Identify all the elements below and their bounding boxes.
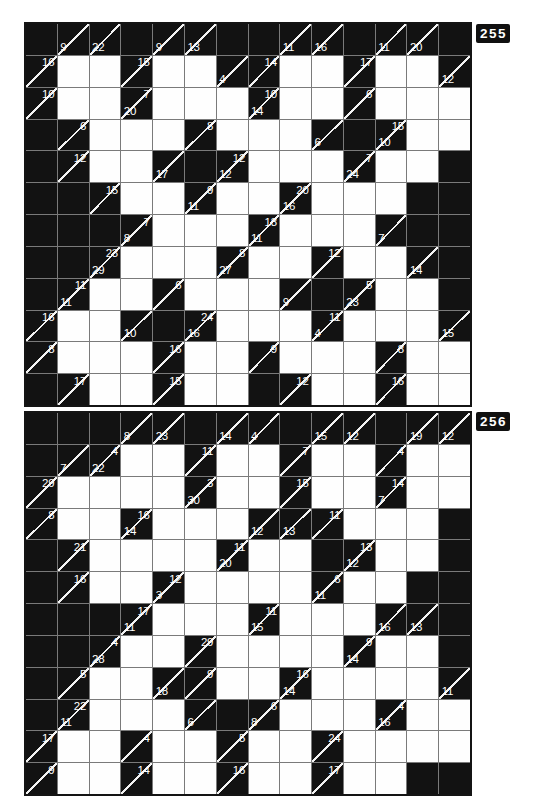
answer-cell[interactable] xyxy=(90,509,121,540)
answer-cell[interactable] xyxy=(121,183,152,214)
answer-cell[interactable] xyxy=(407,279,438,310)
answer-cell[interactable] xyxy=(312,668,343,699)
answer-cell[interactable] xyxy=(376,763,407,794)
answer-cell[interactable] xyxy=(217,183,248,214)
answer-cell[interactable] xyxy=(249,477,280,508)
answer-cell[interactable] xyxy=(153,636,184,667)
answer-cell[interactable] xyxy=(376,540,407,571)
answer-cell[interactable] xyxy=(121,636,152,667)
answer-cell[interactable] xyxy=(121,279,152,310)
answer-cell[interactable] xyxy=(280,731,311,762)
answer-cell[interactable] xyxy=(58,311,89,342)
answer-cell[interactable] xyxy=(121,247,152,278)
answer-cell[interactable] xyxy=(312,183,343,214)
answer-cell[interactable] xyxy=(312,151,343,182)
answer-cell[interactable] xyxy=(217,572,248,603)
answer-cell[interactable] xyxy=(439,477,470,508)
answer-cell[interactable] xyxy=(280,247,311,278)
answer-cell[interactable] xyxy=(407,731,438,762)
answer-cell[interactable] xyxy=(58,763,89,794)
answer-cell[interactable] xyxy=(312,374,343,405)
answer-cell[interactable] xyxy=(407,445,438,476)
answer-cell[interactable] xyxy=(312,88,343,119)
answer-cell[interactable] xyxy=(312,342,343,373)
answer-cell[interactable] xyxy=(121,445,152,476)
answer-cell[interactable] xyxy=(344,477,375,508)
answer-cell[interactable] xyxy=(90,279,121,310)
answer-cell[interactable] xyxy=(439,374,470,405)
answer-cell[interactable] xyxy=(185,215,216,246)
answer-cell[interactable] xyxy=(376,636,407,667)
answer-cell[interactable] xyxy=(185,247,216,278)
answer-cell[interactable] xyxy=(217,668,248,699)
answer-cell[interactable] xyxy=(58,477,89,508)
answer-cell[interactable] xyxy=(121,668,152,699)
answer-cell[interactable] xyxy=(376,668,407,699)
answer-cell[interactable] xyxy=(376,183,407,214)
answer-cell[interactable] xyxy=(344,311,375,342)
answer-cell[interactable] xyxy=(249,572,280,603)
answer-cell[interactable] xyxy=(407,700,438,731)
answer-cell[interactable] xyxy=(439,700,470,731)
answer-cell[interactable] xyxy=(249,183,280,214)
answer-cell[interactable] xyxy=(407,509,438,540)
answer-cell[interactable] xyxy=(185,731,216,762)
answer-cell[interactable] xyxy=(312,604,343,635)
answer-cell[interactable] xyxy=(121,374,152,405)
answer-cell[interactable] xyxy=(344,509,375,540)
answer-cell[interactable] xyxy=(249,151,280,182)
answer-cell[interactable] xyxy=(90,56,121,87)
answer-cell[interactable] xyxy=(439,445,470,476)
answer-cell[interactable] xyxy=(153,183,184,214)
answer-cell[interactable] xyxy=(217,215,248,246)
answer-cell[interactable] xyxy=(217,279,248,310)
answer-cell[interactable] xyxy=(185,604,216,635)
answer-cell[interactable] xyxy=(185,540,216,571)
answer-cell[interactable] xyxy=(217,342,248,373)
answer-cell[interactable] xyxy=(90,374,121,405)
answer-cell[interactable] xyxy=(121,700,152,731)
answer-cell[interactable] xyxy=(185,56,216,87)
answer-cell[interactable] xyxy=(249,279,280,310)
answer-cell[interactable] xyxy=(407,668,438,699)
answer-cell[interactable] xyxy=(153,88,184,119)
answer-cell[interactable] xyxy=(376,247,407,278)
answer-cell[interactable] xyxy=(249,636,280,667)
answer-cell[interactable] xyxy=(280,88,311,119)
answer-cell[interactable] xyxy=(153,56,184,87)
answer-cell[interactable] xyxy=(90,120,121,151)
answer-cell[interactable] xyxy=(90,700,121,731)
answer-cell[interactable] xyxy=(439,731,470,762)
answer-cell[interactable] xyxy=(58,56,89,87)
answer-cell[interactable] xyxy=(344,215,375,246)
answer-cell[interactable] xyxy=(376,56,407,87)
answer-cell[interactable] xyxy=(407,540,438,571)
answer-cell[interactable] xyxy=(217,311,248,342)
answer-cell[interactable] xyxy=(280,636,311,667)
answer-cell[interactable] xyxy=(344,668,375,699)
answer-cell[interactable] xyxy=(217,88,248,119)
answer-cell[interactable] xyxy=(344,374,375,405)
answer-cell[interactable] xyxy=(344,183,375,214)
answer-cell[interactable] xyxy=(90,342,121,373)
answer-cell[interactable] xyxy=(249,120,280,151)
answer-cell[interactable] xyxy=(312,477,343,508)
answer-cell[interactable] xyxy=(407,636,438,667)
answer-cell[interactable] xyxy=(249,668,280,699)
answer-cell[interactable] xyxy=(90,151,121,182)
answer-cell[interactable] xyxy=(90,731,121,762)
answer-cell[interactable] xyxy=(90,311,121,342)
answer-cell[interactable] xyxy=(153,763,184,794)
answer-cell[interactable] xyxy=(407,342,438,373)
answer-cell[interactable] xyxy=(90,572,121,603)
answer-cell[interactable] xyxy=(312,445,343,476)
answer-cell[interactable] xyxy=(90,540,121,571)
answer-cell[interactable] xyxy=(280,311,311,342)
answer-cell[interactable] xyxy=(249,540,280,571)
answer-cell[interactable] xyxy=(439,342,470,373)
answer-cell[interactable] xyxy=(217,636,248,667)
answer-cell[interactable] xyxy=(376,88,407,119)
answer-cell[interactable] xyxy=(312,636,343,667)
answer-cell[interactable] xyxy=(153,445,184,476)
answer-cell[interactable] xyxy=(217,445,248,476)
